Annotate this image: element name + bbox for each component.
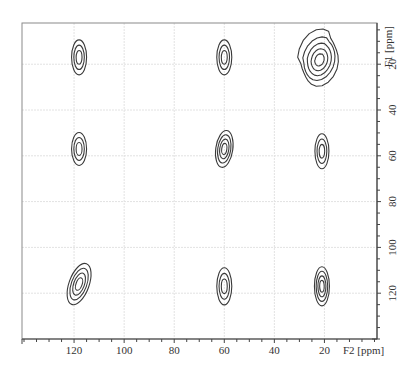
x-tick-label: 60 <box>219 344 231 356</box>
x-tick-label: 120 <box>66 344 83 356</box>
contour-peak <box>315 134 329 169</box>
contour-peak <box>62 260 96 308</box>
y-axis-title: F1 [ppm] <box>382 26 394 67</box>
y-tick-label: 60 <box>386 150 398 162</box>
x-axis-title: F2 [ppm] <box>343 344 384 356</box>
contour-peak <box>72 40 87 75</box>
contour-peak <box>287 23 351 92</box>
contour-peak <box>217 268 232 305</box>
y-tick-label: 80 <box>386 196 398 208</box>
contour-peak <box>213 129 235 168</box>
nmr-2d-spectrum: 12010080604020 20406080100120 F2 [ppm] F… <box>0 0 413 377</box>
x-tick-label: 80 <box>169 344 181 356</box>
contour-peak <box>72 132 87 165</box>
x-tick-label: 40 <box>269 344 281 356</box>
y-tick-label: 100 <box>386 239 398 256</box>
y-axis-f1: 20406080100120 <box>372 23 398 339</box>
contour-peaks <box>62 23 351 308</box>
x-axis-f2: 12010080604020 <box>22 339 377 356</box>
y-tick-label: 120 <box>386 284 398 301</box>
y-tick-label: 40 <box>386 104 398 116</box>
x-tick-label: 100 <box>116 344 133 356</box>
x-tick-label: 20 <box>319 344 331 356</box>
contour-peak <box>314 267 329 306</box>
